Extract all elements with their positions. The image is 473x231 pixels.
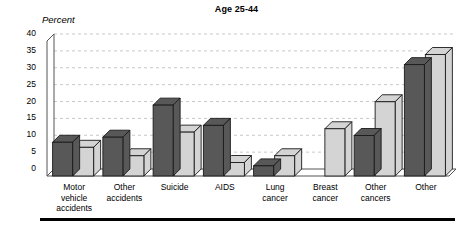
- y-axis-tick-label: 20: [16, 97, 36, 106]
- y-axis-tick-label: 5: [16, 147, 36, 156]
- x-axis-category-label: Other: [396, 182, 456, 193]
- y-axis-tick-label: 25: [16, 80, 36, 89]
- y-axis-tick-label: 15: [16, 113, 36, 122]
- y-axis-tick-label: 35: [16, 46, 36, 55]
- y-axis-tick-label: 40: [16, 29, 36, 38]
- y-axis-tick-label: 30: [16, 63, 36, 72]
- y-axis-tick-label: 0: [16, 164, 36, 173]
- bars: [53, 48, 453, 177]
- y-axis-tick-label: 10: [16, 130, 36, 139]
- bar-chart: Age 25-44 Percent 0510152025303540 Motor…: [0, 0, 473, 231]
- bottom-divider-rule: [40, 218, 455, 221]
